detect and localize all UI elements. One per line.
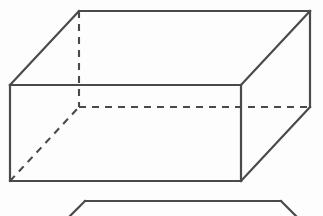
partial-prism-below	[70, 201, 296, 216]
figure-canvas: Rectangular prism (cuboid) line drawing …	[0, 0, 323, 216]
rectangular-prism-diagram: Rectangular prism (cuboid) line drawing …	[0, 0, 323, 216]
partial-right-diagonal	[281, 201, 296, 216]
partial-left-diagonal	[70, 201, 85, 216]
front-face-fill	[10, 85, 241, 181]
